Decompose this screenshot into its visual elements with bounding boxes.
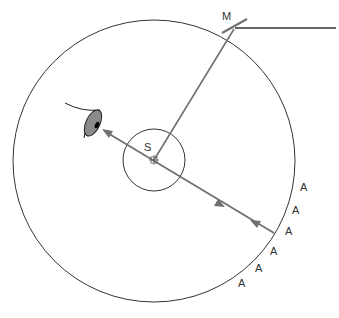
source-to-mirror-ray (154, 29, 234, 160)
eye-icon (65, 103, 105, 139)
observer-label: A (300, 181, 308, 193)
arrowhead-to-eye (102, 129, 113, 138)
mirror-label: M (222, 10, 231, 22)
sight-line (106, 132, 274, 233)
observer-label: A (285, 225, 293, 237)
observer-label: A (292, 204, 300, 216)
observer-label: A (255, 262, 263, 274)
relativity-light-diagram: M S A A A A A A (0, 0, 339, 318)
source-label: S (144, 141, 151, 153)
observer-label: A (270, 245, 278, 257)
observer-label: A (238, 277, 246, 289)
